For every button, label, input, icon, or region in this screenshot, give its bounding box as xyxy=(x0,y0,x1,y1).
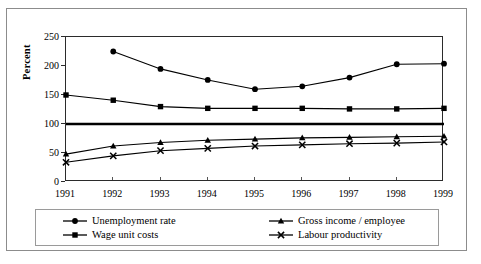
x-tick-label: 1994 xyxy=(197,181,217,199)
series-wage-unit-costs xyxy=(63,92,446,111)
square-marker xyxy=(205,106,210,111)
y-tick-label: 50 xyxy=(49,147,59,158)
x-tick-label: 1992 xyxy=(102,181,122,199)
square-marker xyxy=(252,106,257,111)
circle-marker xyxy=(347,75,353,81)
circle-marker xyxy=(394,61,400,67)
square-marker xyxy=(347,106,352,111)
chart-figure: Percent 050100150200250 1991199219931994… xyxy=(0,0,481,264)
circle-marker xyxy=(205,77,211,83)
circle-marker xyxy=(158,66,164,72)
plot-area-wrapper: Percent 050100150200250 1991199219931994… xyxy=(65,28,448,194)
square-marker xyxy=(158,104,163,109)
legend-marker xyxy=(268,215,294,227)
y-axis-label: Percent xyxy=(21,44,32,80)
x-tick-label: 1999 xyxy=(433,181,453,199)
legend-marker xyxy=(62,215,88,227)
square-marker xyxy=(72,232,77,237)
legend-label: Unemployment rate xyxy=(92,216,176,227)
legend-item[interactable]: Unemployment rate xyxy=(62,215,268,227)
square-marker xyxy=(300,106,305,111)
clipped-caption xyxy=(0,0,481,7)
circle-marker xyxy=(299,83,305,89)
series-layer xyxy=(66,37,444,182)
square-marker xyxy=(441,106,446,111)
x-tick-label: 1991 xyxy=(55,181,75,199)
square-marker xyxy=(63,92,68,97)
x-tick-label: 1993 xyxy=(150,181,170,199)
legend-item[interactable]: Gross income / employee xyxy=(268,215,422,227)
legend-item[interactable]: Wage unit costs xyxy=(62,229,268,241)
legend-label: Gross income / employee xyxy=(298,216,405,227)
legend-items: Unemployment rateGross income / employee… xyxy=(62,214,422,242)
circle-marker xyxy=(441,61,447,67)
circle-marker xyxy=(252,86,258,92)
plot-area xyxy=(65,36,443,181)
y-tick-label: 150 xyxy=(44,89,59,100)
series-gross-income-employee xyxy=(63,133,447,157)
series-unemployment-rate xyxy=(110,49,447,93)
x-tick-label: 1995 xyxy=(244,181,264,199)
square-marker xyxy=(394,106,399,111)
x-tick-label: 1998 xyxy=(386,181,406,199)
circle-marker xyxy=(72,218,78,224)
chart-frame: Percent 050100150200250 1991199219931994… xyxy=(6,8,467,251)
circle-marker xyxy=(110,49,116,55)
legend-item[interactable]: Labour productivity xyxy=(268,229,422,241)
legend-label: Wage unit costs xyxy=(92,230,158,241)
chart-legend: Unemployment rateGross income / employee… xyxy=(35,209,439,246)
legend-marker xyxy=(268,229,294,241)
legend-marker xyxy=(62,229,88,241)
y-tick-label: 100 xyxy=(44,118,59,129)
square-marker xyxy=(111,98,116,103)
y-tick-label: 250 xyxy=(44,31,59,42)
x-tick-label: 1996 xyxy=(291,181,311,199)
legend-label: Labour productivity xyxy=(298,230,382,241)
x-tick-label: 1997 xyxy=(339,181,359,199)
series-labour-productivity xyxy=(63,139,447,166)
y-tick-label: 200 xyxy=(44,60,59,71)
